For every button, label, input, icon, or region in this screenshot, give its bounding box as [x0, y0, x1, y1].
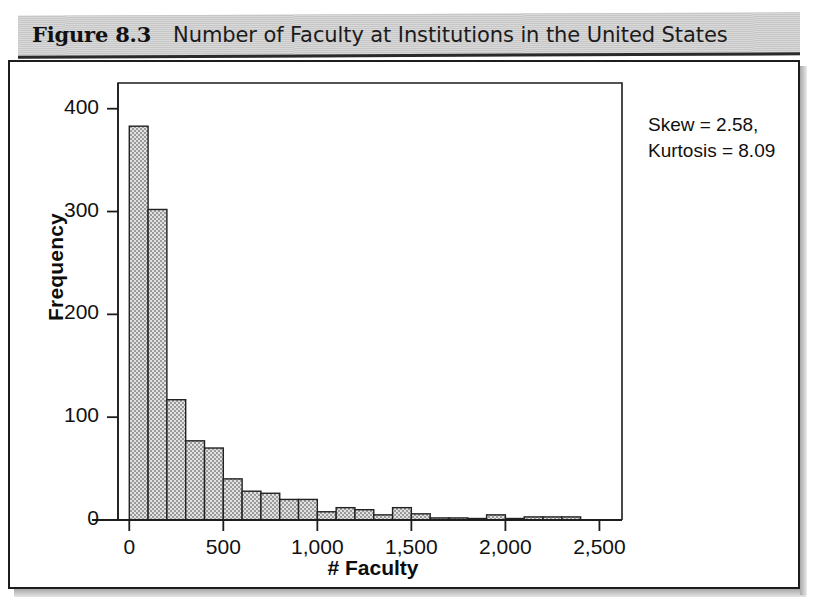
figure-number-label: Figure 8.3 [32, 22, 151, 47]
figure-caption-band: Figure 8.3 Number of Faculty at Institut… [18, 12, 800, 58]
x-axis-tick-label: 500 [178, 535, 268, 559]
x-axis-tick-label: 2,500 [554, 535, 644, 559]
y-axis-tick-label: 200 [29, 300, 99, 324]
y-axis-tick-label: 100 [29, 403, 99, 427]
y-axis-tick-label: 400 [29, 95, 99, 119]
y-axis-tick-label: 0 [29, 506, 99, 530]
x-axis-tick-label: 1,500 [366, 535, 456, 559]
skew-annotation-line: Skew = 2.58, [648, 112, 775, 138]
figure-title: Number of Faculty at Institutions in the… [173, 23, 727, 47]
figure-caption-inner: Figure 8.3 Number of Faculty at Institut… [18, 22, 728, 47]
plate-shadow-bottom [14, 589, 806, 597]
x-axis-title: # Faculty [148, 556, 598, 580]
stats-annotation: Skew = 2.58, Kurtosis = 8.09 [648, 112, 775, 163]
figure-container: Figure 8.3 Number of Faculty at Institut… [0, 0, 815, 614]
kurtosis-annotation-line: Kurtosis = 8.09 [648, 138, 775, 164]
y-axis-tick-label: 300 [29, 198, 99, 222]
plate-shadow-right [800, 66, 807, 595]
x-axis-tick-label: 0 [84, 535, 174, 559]
x-axis-tick-label: 1,000 [272, 535, 362, 559]
x-axis-tick-label: 2,000 [460, 535, 550, 559]
